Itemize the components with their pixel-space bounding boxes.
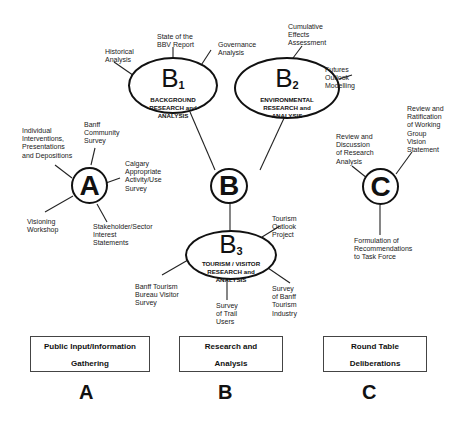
label-review-ratification: Review and Ratification of Working Group…: [407, 105, 444, 154]
node-c-letter: C: [370, 171, 390, 203]
label-calgary-survey: Calgary Appropriate Activity/Use Survey: [125, 160, 162, 193]
box-public-input: Public Input/Information Gathering: [30, 336, 150, 372]
node-a-letter: A: [79, 170, 99, 202]
label-survey-trail-users: Survey of Trail Users: [216, 302, 238, 327]
box-round-table: Round Table Deliberations: [323, 336, 427, 372]
label-historical-analysis: Historical Analysis: [105, 48, 134, 64]
box-research-analysis: Research and Analysis: [179, 336, 283, 372]
column-letter-a: A: [79, 381, 93, 404]
node-a-public-input: A: [71, 167, 108, 204]
label-survey-banff-industry: Survey of Banff Tourism Industry: [272, 285, 297, 318]
label-tourism-outlook: Tourism Outlook Project: [272, 215, 297, 240]
label-cumulative-effects: Cumulative Effects Assessment: [288, 23, 326, 48]
b2-caption: ENVIRONMENTAL RESEARCH and ANALYSIS: [236, 96, 338, 120]
label-formulation-recommendations: Formulation of Recommendations to Task F…: [354, 237, 412, 262]
node-b-letter: B: [219, 170, 239, 202]
label-individual-interventions: Individual Interventions, Presentations …: [22, 127, 72, 160]
column-letter-c: C: [362, 381, 376, 404]
b1-caption: BACKGROUND RESEARCH and ANALYSIS: [130, 96, 216, 120]
node-c-round-table: C: [362, 168, 399, 205]
label-stakeholder-statements: Stakeholder/Sector Interest Statements: [93, 223, 153, 248]
label-banff-community-survey: Banff Community Survey: [84, 121, 119, 146]
b3-caption: TOURISM / VISITOR RESEARCH and ANALYSIS: [187, 260, 275, 284]
b1-symbol: B1: [130, 65, 216, 96]
label-state-of-bbv-report: State of the BBV Report: [157, 33, 194, 49]
label-visioning-workshop: Visioning Workshop: [27, 218, 58, 234]
label-banff-tourism-bureau: Banff Tourism Bureau Visitor Survey: [135, 283, 179, 308]
b3-symbol: B3: [187, 233, 275, 260]
column-letter-b: B: [218, 381, 232, 404]
b2-symbol: B2: [236, 65, 338, 96]
node-b-research-analysis: B: [210, 168, 248, 204]
node-b3-tourism-visitor-research: B3 TOURISM / VISITOR RESEARCH and ANALYS…: [185, 230, 277, 280]
label-review-discussion: Review and Discussion of Research Analys…: [336, 133, 374, 166]
label-futures-outlook: Futures Outlook Modelling: [325, 66, 355, 91]
node-b1-background-research: B1 BACKGROUND RESEARCH and ANALYSIS: [128, 57, 218, 114]
label-governance-analysis: Governance Analysis: [218, 41, 256, 57]
